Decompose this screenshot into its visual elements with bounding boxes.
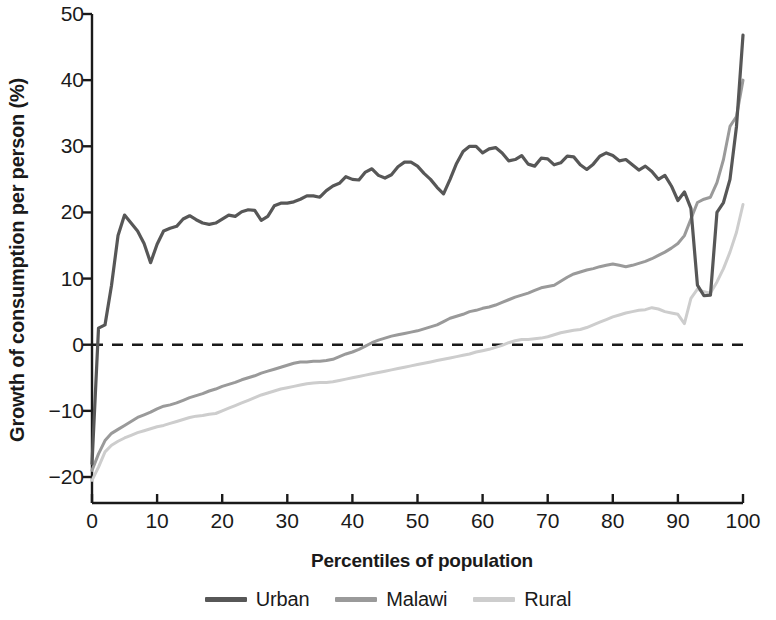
legend-swatch-malawi: [335, 597, 377, 602]
series-line-urban: [92, 35, 743, 464]
legend-swatch-urban: [205, 597, 247, 602]
x-tick-label: 60: [471, 509, 494, 533]
x-tick-label: 50: [406, 509, 429, 533]
x-tick-label: 70: [536, 509, 559, 533]
x-axis-title: Percentiles of population: [92, 550, 752, 572]
x-tick-label: 40: [341, 509, 364, 533]
legend-label: Urban: [256, 588, 309, 611]
x-tick-label: 20: [211, 509, 234, 533]
chart-figure: Growth of consumption per person (%) 504…: [0, 0, 776, 620]
legend-item-malawi[interactable]: Malawi: [335, 588, 447, 611]
legend-item-rural[interactable]: Rural: [473, 588, 571, 611]
chart-legend: UrbanMalawiRural: [0, 588, 776, 611]
legend-label: Rural: [524, 588, 571, 611]
x-tick-label: 90: [666, 509, 689, 533]
series-line-rural: [92, 204, 743, 480]
series-line-malawi: [92, 80, 743, 470]
x-tick-label: 10: [145, 509, 168, 533]
legend-swatch-rural: [473, 597, 515, 602]
plot-area: [0, 0, 776, 620]
x-tick-label: 100: [725, 509, 760, 533]
x-tick-label: 30: [276, 509, 299, 533]
x-tick-label: 80: [601, 509, 624, 533]
legend-label: Malawi: [386, 588, 447, 611]
legend-item-urban[interactable]: Urban: [205, 588, 309, 611]
x-tick-label: 0: [86, 509, 98, 533]
